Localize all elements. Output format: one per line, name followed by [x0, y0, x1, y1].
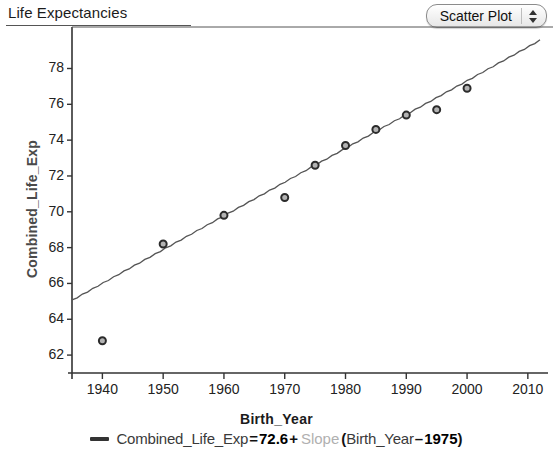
- equation-equals: =: [248, 430, 259, 447]
- equation-close-paren: ): [458, 430, 463, 447]
- chart-header: Life Expectancies Scatter Plot: [0, 0, 553, 26]
- page-title: Life Expectancies: [8, 4, 127, 21]
- equation-intercept: 72.6: [259, 430, 288, 447]
- data-point[interactable]: [464, 85, 471, 92]
- chart-plot-area: Combined_Life_Exp 626466687072747678 194…: [0, 26, 553, 411]
- triangle-down-icon[interactable]: [529, 18, 537, 23]
- data-point[interactable]: [160, 241, 167, 248]
- scatter-plot-svg[interactable]: [0, 26, 553, 411]
- equation-response: Combined_Life_Exp: [116, 430, 248, 447]
- regression-fit-line: [72, 40, 540, 300]
- data-point[interactable]: [99, 337, 106, 344]
- triangle-up-icon[interactable]: [529, 10, 537, 15]
- data-point[interactable]: [342, 142, 349, 149]
- data-point[interactable]: [220, 212, 227, 219]
- data-point[interactable]: [281, 194, 288, 201]
- line-legend-icon: [90, 437, 109, 441]
- plot-type-selector[interactable]: Scatter Plot: [426, 4, 547, 28]
- data-point[interactable]: [372, 126, 379, 133]
- x-axis-label: Birth_Year: [0, 411, 553, 427]
- data-point[interactable]: [312, 162, 319, 169]
- equation-predictor: Birth_Year: [346, 430, 414, 447]
- plot-type-value: Scatter Plot: [427, 5, 521, 27]
- equation-minus: –: [414, 430, 424, 447]
- equation-center: 1975: [424, 430, 457, 447]
- data-point[interactable]: [403, 112, 410, 119]
- data-point[interactable]: [433, 106, 440, 113]
- regression-equation-legend[interactable]: Combined_Life_Exp = 72.6 + Slope ( Birth…: [0, 430, 553, 447]
- spinner-arrows[interactable]: [522, 5, 544, 27]
- equation-slope-placeholder[interactable]: Slope: [299, 430, 341, 447]
- equation-plus: +: [288, 430, 299, 447]
